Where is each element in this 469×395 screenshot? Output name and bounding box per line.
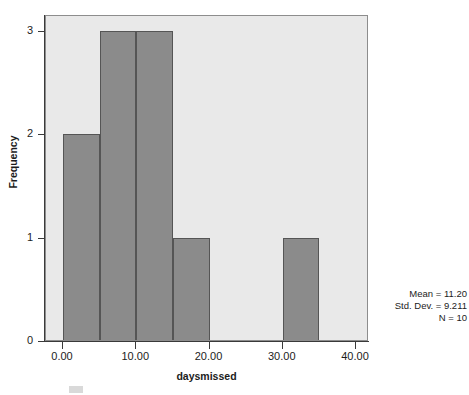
histogram-bar bbox=[100, 31, 137, 341]
histogram-figure: 0123 Frequency 0.0010.0020.0030.0040.00 … bbox=[0, 0, 469, 395]
plot-area bbox=[45, 15, 368, 341]
x-tick-label: 20.00 bbox=[179, 351, 239, 362]
x-tick-mark bbox=[135, 342, 136, 349]
y-axis-line bbox=[44, 15, 45, 342]
y-axis-title: Frequency bbox=[7, 122, 19, 202]
histogram-bar bbox=[173, 238, 210, 341]
x-tick-mark bbox=[355, 342, 356, 349]
x-tick-mark bbox=[282, 342, 283, 349]
stat-n: N = 10 bbox=[375, 312, 467, 324]
histogram-bar bbox=[136, 31, 173, 341]
y-tick-label: 0 bbox=[3, 335, 33, 346]
x-tick-label: 10.00 bbox=[105, 351, 165, 362]
x-tick-label: 0.00 bbox=[32, 351, 92, 362]
stat-mean: Mean = 11.20 bbox=[375, 288, 467, 300]
y-tick-label: 3 bbox=[3, 25, 33, 36]
scan-artifact bbox=[69, 386, 83, 393]
x-tick-label: 30.00 bbox=[252, 351, 312, 362]
statistics-annotation: Mean = 11.20 Std. Dev. = 9.211 N = 10 bbox=[375, 288, 467, 324]
histogram-bar bbox=[283, 238, 320, 341]
x-axis-line bbox=[44, 341, 369, 342]
bars-layer bbox=[46, 16, 367, 340]
y-tick-mark bbox=[38, 31, 45, 32]
y-tick-mark bbox=[38, 134, 45, 135]
y-tick-label: 1 bbox=[3, 232, 33, 243]
stat-std-dev: Std. Dev. = 9.211 bbox=[375, 300, 467, 312]
histogram-bar bbox=[63, 134, 100, 341]
x-axis-title: daysmissed bbox=[45, 370, 368, 382]
y-tick-mark bbox=[38, 238, 45, 239]
x-tick-mark bbox=[209, 342, 210, 349]
x-tick-label: 40.00 bbox=[325, 351, 385, 362]
x-tick-mark bbox=[62, 342, 63, 349]
